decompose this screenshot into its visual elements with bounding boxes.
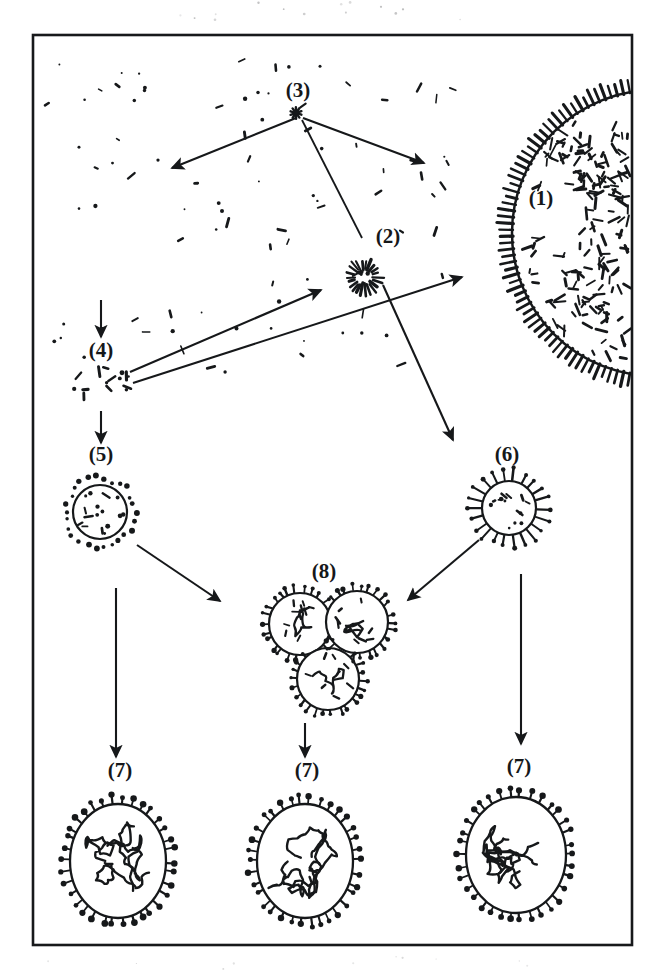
background-debris bbox=[45, 59, 456, 378]
arrow-right-particle-to-cluster bbox=[408, 540, 479, 600]
arrow-fragments-to-cell bbox=[133, 277, 462, 383]
label-virion-cluster: (8) bbox=[312, 559, 337, 583]
virion-cluster bbox=[260, 582, 398, 718]
label-mature-virion-left: (7) bbox=[108, 758, 133, 782]
enveloped-particle-left bbox=[63, 473, 140, 552]
arrow-source-to-left bbox=[172, 118, 296, 168]
enveloped-particle-right bbox=[465, 465, 553, 550]
arrow-cell-to-right-particle bbox=[383, 285, 453, 440]
label-mature-virion-middle: (7) bbox=[295, 758, 320, 782]
label-mature-virion-right: (7) bbox=[507, 754, 532, 778]
virology-figure: (1)(2)(3)(4)(5)(6)(7)(7)(7)(8) bbox=[0, 0, 663, 976]
asterisk-source bbox=[291, 107, 302, 118]
label-asterisk-source: (3) bbox=[286, 78, 311, 102]
label-fragment-cluster: (4) bbox=[89, 338, 114, 362]
diagram-canvas: (1)(2)(3)(4)(5)(6)(7)(7)(7)(8) bbox=[0, 0, 663, 976]
fragment-cluster bbox=[72, 367, 131, 400]
label-enveloped-particle-right: (6) bbox=[495, 442, 520, 466]
starburst-particle bbox=[347, 260, 384, 297]
label-enveloped-particle-left: (5) bbox=[89, 442, 114, 466]
label-starburst-particle: (2) bbox=[376, 224, 401, 248]
mature-virions bbox=[58, 786, 575, 930]
label-host-cell: (1) bbox=[529, 186, 554, 210]
arrow-left-particle-to-cluster bbox=[137, 545, 220, 601]
